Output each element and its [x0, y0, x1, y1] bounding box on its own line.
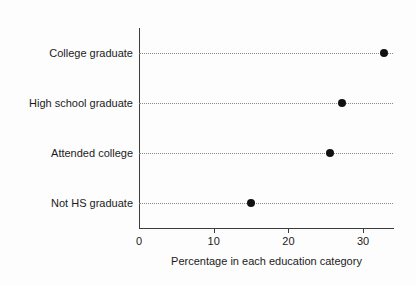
x-tick-mark — [363, 228, 364, 233]
gridline — [139, 53, 393, 54]
plot-area — [139, 28, 393, 228]
category-label: Not HS graduate — [11, 197, 139, 209]
x-axis-line — [139, 228, 394, 229]
data-point[interactable] — [380, 49, 388, 57]
x-tick-label: 10 — [208, 235, 220, 247]
category-axis-labels: College graduateHigh school graduateAtte… — [0, 28, 139, 228]
x-axis-title: Percentage in each education category — [139, 255, 394, 267]
category-label: High school graduate — [11, 97, 139, 109]
data-point[interactable] — [338, 99, 346, 107]
gridline — [139, 203, 393, 204]
category-label: Attended college — [11, 147, 139, 159]
x-tick-label: 0 — [136, 235, 142, 247]
x-tick-mark — [288, 228, 289, 233]
gridline — [139, 153, 393, 154]
data-point[interactable] — [247, 199, 255, 207]
dot-plot-chart: College graduateHigh school graduateAtte… — [0, 0, 416, 285]
x-tick-mark — [214, 228, 215, 233]
x-tick-label: 30 — [357, 235, 369, 247]
gridline — [139, 103, 393, 104]
data-point[interactable] — [326, 149, 334, 157]
x-tick-label: 20 — [282, 235, 294, 247]
category-label: College graduate — [11, 47, 139, 59]
